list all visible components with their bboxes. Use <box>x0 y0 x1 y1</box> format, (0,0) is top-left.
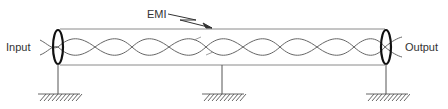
emi-label: EMI <box>147 8 167 20</box>
output-label: Output <box>405 41 438 53</box>
induced-noise-marks <box>194 37 213 55</box>
output-shield-termination <box>381 30 391 64</box>
ground-stems <box>58 64 386 94</box>
input-label: Input <box>6 41 30 53</box>
twisted-pair-emi-diagram: EMI Input Output <box>0 0 448 109</box>
ground-middle <box>202 94 246 101</box>
cable-shield <box>60 29 385 65</box>
emi-arrow-icon <box>168 14 212 28</box>
ground-left <box>38 94 82 101</box>
twisted-pair-wires <box>40 37 402 57</box>
ground-right <box>366 94 410 101</box>
